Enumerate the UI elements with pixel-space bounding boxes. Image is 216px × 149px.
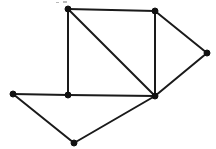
graph-edge — [68, 95, 155, 96]
graph-edge — [68, 9, 155, 11]
graph-vertex — [152, 8, 158, 14]
graph-edge-layer — [13, 9, 207, 143]
graph-vertex — [10, 91, 16, 97]
graph-vertex — [152, 93, 158, 99]
graph-vertex — [71, 140, 77, 146]
graph-vertex — [65, 92, 71, 98]
graph-edge — [74, 96, 155, 143]
scan-artifact-layer — [56, 1, 67, 3]
graph-edge — [13, 94, 74, 143]
graph-vertex — [65, 6, 71, 12]
scan-artifact — [56, 2, 59, 3]
graph-edge — [155, 53, 207, 96]
graph-diagram — [0, 0, 216, 149]
graph-vertex — [204, 50, 210, 56]
scan-artifact — [63, 1, 67, 3]
graph-edge — [13, 94, 68, 95]
graph-edge — [68, 9, 155, 96]
graph-edge — [155, 11, 207, 53]
graph-canvas — [0, 0, 216, 149]
